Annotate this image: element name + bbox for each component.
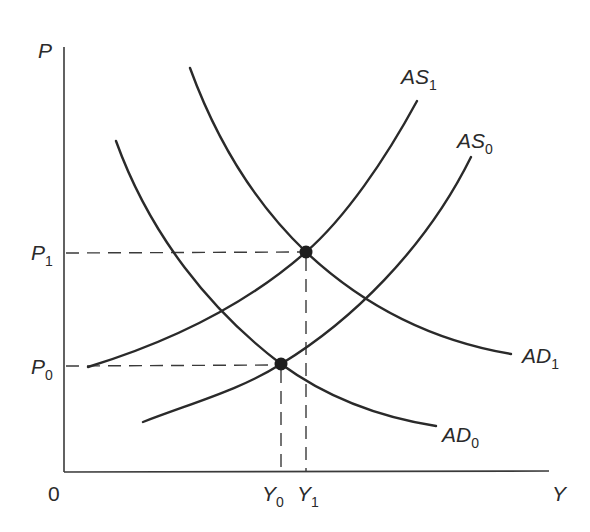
equilibrium-point-e0 [275, 358, 288, 371]
p0-label-main: P [31, 355, 45, 378]
ad0-curve [116, 141, 436, 426]
as1-label-subscript: 1 [429, 77, 437, 93]
as1-curve [88, 101, 417, 367]
y0-label: Y0 [262, 482, 284, 510]
p1-label-main: P [31, 241, 45, 264]
p0-label: P0 [31, 355, 53, 383]
as0-label: AS0 [455, 129, 493, 157]
ad0-label-main: AD [440, 423, 471, 446]
y0-label-subscript: 0 [276, 494, 284, 510]
p1-guide-line [66, 252, 300, 253]
ad1-label-subscript: 1 [551, 356, 559, 372]
x-axis [64, 471, 549, 472]
as-ad-diagram: P Y 0 P1 P0 Y0 Y1 AS1 AS0 AD1 AD0 [0, 0, 590, 532]
y1-label-subscript: 1 [311, 494, 319, 510]
y-axis-label: P [38, 39, 52, 62]
as0-label-subscript: 0 [485, 141, 493, 157]
ad1-label-main: AD [520, 344, 551, 367]
p1-label-subscript: 1 [45, 253, 53, 269]
p1-label: P1 [31, 241, 53, 269]
equilibrium-point-e1 [300, 246, 313, 259]
as1-label-main: AS [399, 65, 429, 88]
origin-label: 0 [48, 482, 60, 505]
as0-label-main: AS [455, 129, 485, 152]
ad1-label: AD1 [520, 344, 559, 372]
ad0-label-subscript: 0 [471, 435, 479, 451]
p0-label-subscript: 0 [45, 367, 53, 383]
x-axis-label: Y [552, 482, 568, 505]
as1-label: AS1 [399, 65, 437, 93]
ad0-label: AD0 [440, 423, 479, 451]
y1-label: Y1 [297, 482, 319, 510]
